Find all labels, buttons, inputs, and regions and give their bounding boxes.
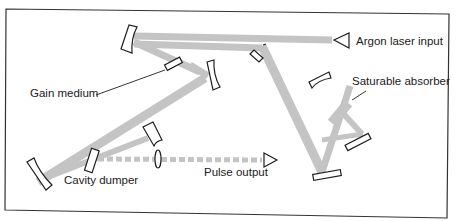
label-pulse-output: Pulse output <box>204 166 268 178</box>
gain-to-mirror-beam <box>190 65 208 76</box>
gain-side-mirror <box>207 60 220 90</box>
label-cavity-dumper: Cavity dumper <box>64 174 138 186</box>
dumper-mirror <box>143 122 162 146</box>
argon-input-beam <box>134 36 332 40</box>
label-gain-medium: Gain medium <box>30 87 98 99</box>
fold-down-beam <box>262 46 322 172</box>
laser-cavity-diagram <box>0 0 457 221</box>
pulse-output-beam <box>98 159 262 160</box>
absorber-top-mirror <box>309 72 331 88</box>
saturable-absorber-leader <box>352 91 366 100</box>
output-lens <box>155 150 161 168</box>
bottom-to-absorber-beam <box>322 86 350 172</box>
argon-input-arrow-icon <box>334 33 349 48</box>
label-argon-input: Argon laser input <box>356 35 443 47</box>
pulse-output-arrow-icon <box>264 153 277 167</box>
gain-medium-leader <box>96 70 165 95</box>
beam-paths <box>38 36 363 182</box>
label-saturable-absorber: Saturable absorber <box>352 75 450 87</box>
